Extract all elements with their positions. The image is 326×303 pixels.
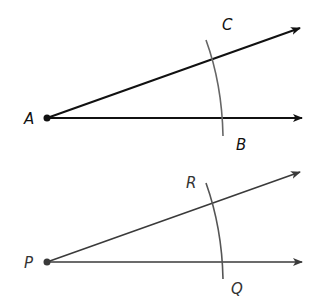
- original-angle: A C B: [23, 16, 302, 154]
- label-q: Q: [231, 280, 243, 298]
- ray-pr: [47, 172, 300, 262]
- compass-arc-qr: [206, 183, 223, 279]
- vertex-point-a: [44, 115, 51, 122]
- angle-construction-svg: A C B P R Q: [0, 0, 326, 303]
- label-p: P: [24, 254, 34, 272]
- copied-angle: P R Q: [24, 172, 302, 298]
- vertex-point-p: [44, 259, 51, 266]
- label-r: R: [186, 174, 196, 192]
- diagram-canvas: A C B P R Q: [0, 0, 326, 303]
- label-a: A: [23, 110, 34, 128]
- ray-ac: [47, 28, 300, 118]
- compass-arc-bc: [206, 40, 223, 136]
- label-b: B: [236, 136, 246, 154]
- label-c: C: [222, 16, 233, 34]
